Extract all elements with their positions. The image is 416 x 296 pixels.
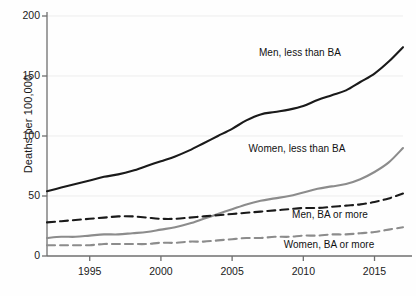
series-line-0 xyxy=(47,47,403,191)
line-chart: Deaths per 100,000 050100150200 19952000… xyxy=(0,0,416,296)
series-line-3 xyxy=(47,227,403,245)
series-line-1 xyxy=(47,148,403,238)
series-line-2 xyxy=(47,194,403,223)
plot-area xyxy=(0,0,416,296)
